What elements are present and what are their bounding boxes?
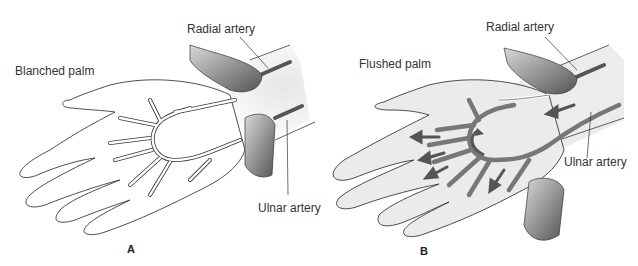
panel-a-radial-artery-label: Radial artery: [187, 22, 255, 36]
panel-a-title: Blanched palm: [15, 64, 94, 78]
panel-a-letter: A: [127, 243, 135, 255]
panel-b-radial-artery-label: Radial artery: [486, 20, 554, 34]
panel-a-blanched-palm: Blanched palm Radial artery Ulnar artery…: [0, 0, 319, 266]
blanched-hand-illustration: [0, 0, 319, 266]
panel-a-ulnar-artery-label: Ulnar artery: [258, 201, 321, 215]
panel-b-ulnar-artery-label: Ulnar artery: [564, 155, 627, 169]
panel-b-flushed-palm: Flushed palm Radial artery Ulnar artery …: [319, 0, 638, 266]
panel-b-letter: B: [420, 245, 428, 257]
flushed-hand-illustration: [319, 0, 638, 266]
panel-b-title: Flushed palm: [359, 57, 431, 71]
